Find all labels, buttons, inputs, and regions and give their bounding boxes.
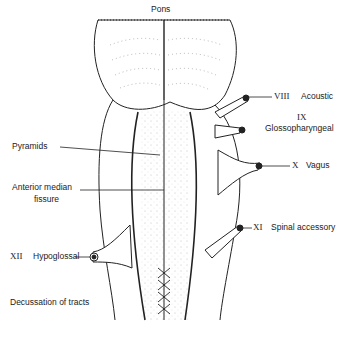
pons-shape xyxy=(94,20,236,109)
hypoglossal-nerve xyxy=(93,225,132,268)
glosso-numeral: IX xyxy=(297,113,307,122)
acoustic-label: Acoustic xyxy=(301,92,333,101)
pyramids-label: Pyramids xyxy=(12,142,47,151)
spinal-label: Spinal accessory xyxy=(271,223,335,232)
vagus-numeral: X xyxy=(292,161,299,170)
glosso-label: Glossopharyngeal xyxy=(265,124,334,133)
anterior-median-label-2: fissure xyxy=(34,195,59,204)
hypoglossal-numeral: XII xyxy=(10,252,23,261)
spinal-numeral: XI xyxy=(253,223,263,232)
hypoglossal-label: Hypoglossal xyxy=(33,252,79,261)
glosso-nerve xyxy=(215,125,240,138)
spinal-accessory-nerve xyxy=(205,226,242,258)
vagus-nerve xyxy=(218,150,260,195)
pons-label: Pons xyxy=(151,5,170,14)
acoustic-numeral: VIII xyxy=(274,92,290,101)
decussation-label: Decussation of tracts xyxy=(10,298,89,307)
anterior-median-label-1: Anterior median xyxy=(12,183,72,192)
vagus-label: Vagus xyxy=(306,161,329,170)
medulla-diagram xyxy=(0,0,348,341)
